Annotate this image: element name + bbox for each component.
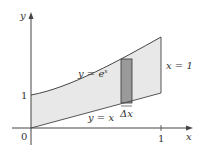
area-between-curves-diagram: y x 0 1 1 y = ex y = x x = 1 Δx <box>0 0 202 152</box>
y-axis-label: y <box>19 10 26 21</box>
line-label: y = x <box>87 112 114 123</box>
x-tick-label: 1 <box>158 133 164 144</box>
y-axis-arrow-icon <box>29 12 34 19</box>
delta-x-label: Δx <box>119 108 133 119</box>
curve-exp-label: y = ex <box>77 67 108 79</box>
y-tick-label: 1 <box>21 90 27 101</box>
x-axis-label: x <box>186 131 192 142</box>
origin-label: 0 <box>21 131 27 142</box>
boundary-label: x = 1 <box>166 60 193 71</box>
x-axis-arrow-icon <box>186 126 193 131</box>
delta-x-strip <box>121 59 132 103</box>
